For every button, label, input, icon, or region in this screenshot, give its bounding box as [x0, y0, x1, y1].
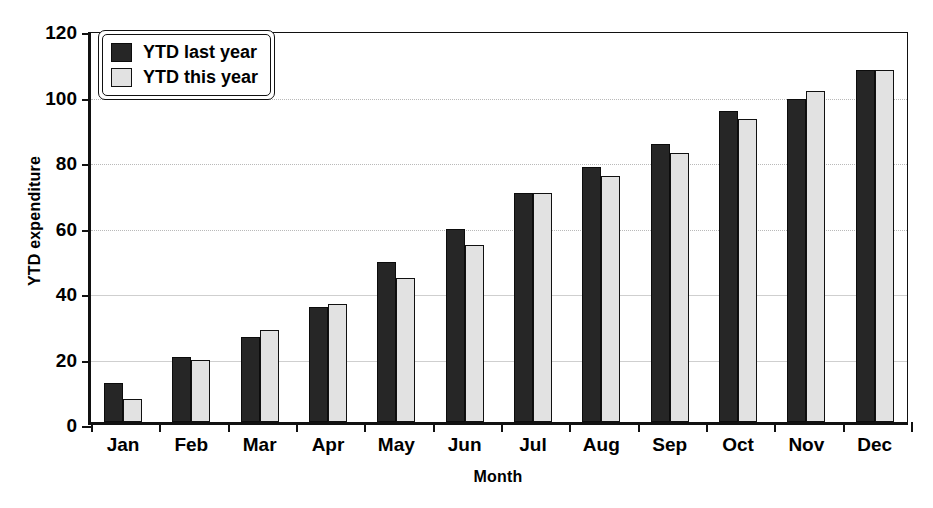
x-axis-tick-label-mar: Mar — [243, 434, 277, 456]
y-axis-tick — [82, 99, 91, 101]
bar-jul-last-year — [514, 193, 533, 422]
gridline — [91, 164, 907, 165]
y-axis-tick — [82, 426, 91, 428]
x-axis-tick-label-feb: Feb — [174, 434, 208, 456]
bar-may-this-year — [396, 278, 415, 422]
x-axis-title: Month — [88, 468, 908, 486]
bar-aug-last-year — [582, 167, 601, 422]
y-axis-tick — [82, 361, 91, 363]
bar-group — [446, 33, 484, 422]
bar-chart-figure: YTD expenditure 020406080100120JanFebMar… — [0, 0, 933, 508]
x-axis-tick — [364, 422, 366, 432]
bar-group — [309, 33, 347, 422]
bar-jan-last-year — [104, 383, 123, 422]
y-axis-tick-label: 0 — [66, 415, 77, 437]
x-axis-tick-label-sep: Sep — [652, 434, 687, 456]
y-axis-tick-label: 20 — [56, 350, 77, 372]
x-axis-tick — [228, 422, 230, 432]
y-axis-tick-label: 60 — [56, 219, 77, 241]
y-axis-tick — [82, 295, 91, 297]
legend-swatch-this-year — [111, 68, 132, 87]
x-axis-tick — [706, 422, 708, 432]
x-axis-tick — [911, 422, 913, 432]
y-axis-tick-label: 40 — [56, 284, 77, 306]
bar-feb-last-year — [172, 357, 191, 423]
gridline — [91, 230, 907, 231]
bar-group — [651, 33, 689, 422]
x-axis-tick — [774, 422, 776, 432]
legend-inner: YTD last year YTD this year — [102, 34, 271, 96]
bar-group — [719, 33, 757, 422]
x-axis-tick — [296, 422, 298, 432]
gridline — [91, 361, 907, 362]
bar-jun-this-year — [465, 245, 484, 422]
x-axis-tick — [569, 422, 571, 432]
y-axis-tick-label: 120 — [45, 22, 77, 44]
x-axis-tick — [433, 422, 435, 432]
bar-may-last-year — [377, 262, 396, 422]
y-axis-title: YTD expenditure — [26, 101, 44, 341]
bar-group — [787, 33, 825, 422]
legend-item-this-year: YTD this year — [111, 65, 258, 90]
x-axis-tick-label-may: May — [378, 434, 415, 456]
bar-oct-last-year — [719, 111, 738, 422]
bar-group — [377, 33, 415, 422]
bar-feb-this-year — [191, 360, 210, 422]
x-axis-tick-label-jan: Jan — [107, 434, 140, 456]
x-axis-tick-label-jul: Jul — [519, 434, 546, 456]
bar-group — [514, 33, 552, 422]
bar-jun-last-year — [446, 229, 465, 422]
bar-oct-this-year — [738, 119, 757, 422]
y-axis-tick — [82, 33, 91, 35]
gridline — [91, 295, 907, 296]
x-axis-tick-label-nov: Nov — [788, 434, 824, 456]
x-axis-tick-label-dec: Dec — [857, 434, 892, 456]
x-axis-tick-label-aug: Aug — [583, 434, 620, 456]
bar-dec-this-year — [875, 70, 894, 422]
bar-group — [582, 33, 620, 422]
legend: YTD last year YTD this year — [98, 30, 275, 100]
bar-nov-last-year — [787, 99, 806, 422]
bar-jul-this-year — [533, 193, 552, 422]
x-axis-tick — [159, 422, 161, 432]
bar-dec-last-year — [856, 70, 875, 422]
legend-label-last-year: YTD last year — [143, 42, 257, 63]
legend-swatch-last-year — [111, 43, 132, 62]
bar-mar-last-year — [241, 337, 260, 422]
y-axis-tick — [82, 164, 91, 166]
bar-apr-last-year — [309, 307, 328, 422]
bar-apr-this-year — [328, 304, 347, 422]
y-axis-tick — [82, 230, 91, 232]
bar-mar-this-year — [260, 330, 279, 422]
legend-label-this-year: YTD this year — [143, 67, 258, 88]
x-axis-tick-label-oct: Oct — [722, 434, 754, 456]
bar-sep-this-year — [670, 153, 689, 422]
x-axis-tick — [91, 422, 93, 432]
bar-group — [856, 33, 894, 422]
y-axis-tick-label: 80 — [56, 153, 77, 175]
y-axis-tick-label: 100 — [45, 88, 77, 110]
legend-item-last-year: YTD last year — [111, 40, 258, 65]
x-axis-tick-label-apr: Apr — [312, 434, 345, 456]
bar-sep-last-year — [651, 144, 670, 422]
x-axis-tick — [638, 422, 640, 432]
x-axis-tick — [843, 422, 845, 432]
x-axis-tick-label-jun: Jun — [448, 434, 482, 456]
bar-nov-this-year — [806, 91, 825, 422]
x-axis-tick — [501, 422, 503, 432]
bar-aug-this-year — [601, 176, 620, 422]
bar-jan-this-year — [123, 399, 142, 422]
